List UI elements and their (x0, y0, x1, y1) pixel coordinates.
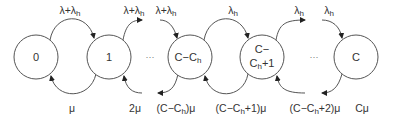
rate-backward-0: μ (69, 102, 75, 114)
state-C-label: C (352, 51, 360, 63)
arc-backward-dots-1 (124, 76, 142, 93)
arc-backward-CCh1-CCh (205, 74, 248, 94)
ellipsis-1: ··· (146, 52, 155, 62)
state-C-minus-Ch-plus-1-label-line1: C− (255, 43, 269, 55)
state-C-minus-Ch-plus-1-label-line2: Ch+1 (250, 57, 275, 71)
rate-backward-2: (C−Ch)μ (157, 102, 196, 116)
arc-backward-1-0 (51, 74, 96, 94)
arc-forward-dots-C (322, 20, 342, 38)
rate-backward-4: (C−Ch+2)μ (290, 102, 341, 116)
rate-backward-3: (C−Ch+1)μ (216, 102, 267, 116)
state-0-label: 0 (33, 51, 39, 63)
rate-forward-0: λ+λh (59, 4, 80, 18)
arc-backward-CCh-dots (158, 74, 178, 93)
rate-forward-4: λh (294, 4, 304, 18)
state-1-label: 1 (106, 51, 112, 63)
markov-chain-diagram: 0 1 C−Ch C− Ch+1 C ··· ··· λ+λh λ+λh λ+λ… (0, 0, 395, 120)
arc-forward-CCh1-dots (276, 20, 305, 40)
rate-forward-2: λ+λh (155, 4, 176, 18)
rate-backward-5: Cμ (355, 102, 369, 114)
arc-forward-dots-CCh (160, 20, 177, 38)
rate-forward-5: λh (324, 4, 334, 18)
arc-backward-dots-CCh1 (277, 76, 305, 93)
arc-backward-C-dots (322, 74, 342, 93)
arc-forward-CCh-CCh1 (204, 19, 248, 40)
rate-forward-1: λ+λh (123, 4, 144, 18)
ellipsis-2: ··· (310, 52, 319, 62)
rate-forward-3: λh (228, 4, 238, 18)
rate-backward-1: 2μ (129, 102, 141, 114)
arc-forward-1-dots (123, 20, 142, 40)
arc-forward-0-1 (50, 19, 94, 40)
